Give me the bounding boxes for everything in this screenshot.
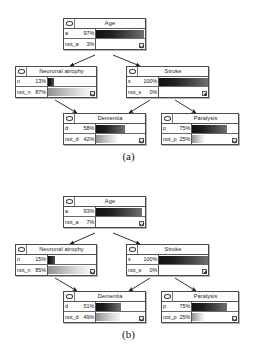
state-percent: 100% bbox=[144, 77, 158, 86]
ellipse-glyph bbox=[18, 247, 25, 252]
probability-bar-cell bbox=[48, 265, 96, 275]
ellipse-node-icon[interactable] bbox=[127, 245, 138, 254]
state-name: not_s bbox=[128, 88, 141, 97]
state-row-not_d[interactable]: not_d42% bbox=[64, 134, 145, 144]
probability-bar-cell bbox=[96, 217, 145, 227]
node-title: Stroke bbox=[138, 245, 208, 254]
state-name: d bbox=[65, 124, 68, 133]
probability-bar-cell bbox=[48, 87, 96, 97]
checkbox-checked-icon[interactable] bbox=[90, 91, 95, 96]
state-row-not_n[interactable]: not_n85% bbox=[16, 265, 96, 275]
ellipse-node-icon[interactable] bbox=[64, 19, 75, 28]
state-row-not_s[interactable]: not_s0% bbox=[127, 87, 208, 97]
node-title: Neuronal atrophy bbox=[27, 67, 96, 76]
probability-bar-cell bbox=[96, 207, 145, 216]
node-title-row: Neuronal atrophy bbox=[16, 245, 96, 255]
checkbox-checked-icon[interactable] bbox=[139, 43, 144, 48]
bn-node-stroke[interactable]: Strokes100%not_s0% bbox=[126, 244, 209, 276]
state-labels: s100% bbox=[127, 255, 159, 264]
state-labels: not_a7% bbox=[64, 217, 96, 227]
state-name: a bbox=[65, 29, 68, 38]
checkbox-checked-icon[interactable] bbox=[139, 221, 144, 226]
ellipse-node-icon[interactable] bbox=[162, 114, 173, 123]
bn-node-age[interactable]: Agea93%not_a7% bbox=[63, 196, 146, 228]
state-row-not_d[interactable]: not_d49% bbox=[64, 312, 145, 322]
probability-bar-cell bbox=[192, 302, 238, 311]
state-row-not_p[interactable]: not_p25% bbox=[162, 312, 238, 322]
ellipse-node-icon[interactable] bbox=[16, 67, 27, 76]
state-row-not_s[interactable]: not_s0% bbox=[127, 265, 208, 275]
probability-bar bbox=[192, 313, 203, 321]
bn-node-paralysis[interactable]: Paralysisp75%not_p25% bbox=[161, 113, 239, 145]
state-percent: 75% bbox=[180, 124, 191, 133]
state-percent: 42% bbox=[84, 135, 95, 144]
state-name: s bbox=[128, 77, 131, 86]
ellipse-glyph bbox=[66, 116, 73, 121]
bn-node-dementia[interactable]: Dementiad51%not_d49% bbox=[63, 291, 146, 323]
probability-bar bbox=[96, 135, 116, 143]
plus-box-icon[interactable] bbox=[202, 269, 207, 274]
probability-bar-cell bbox=[96, 312, 145, 322]
state-row-a[interactable]: a97% bbox=[64, 29, 145, 39]
state-percent: 15% bbox=[35, 255, 46, 264]
state-row-p[interactable]: p75% bbox=[162, 124, 238, 134]
state-row-d[interactable]: d58% bbox=[64, 124, 145, 134]
state-row-a[interactable]: a93% bbox=[64, 207, 145, 217]
state-name: not_a bbox=[65, 40, 79, 49]
state-row-d[interactable]: d51% bbox=[64, 302, 145, 312]
probability-bar bbox=[96, 303, 121, 311]
bn-node-age[interactable]: Agea97%not_a3% bbox=[63, 18, 146, 50]
state-labels: d58% bbox=[64, 124, 96, 133]
plus-box-icon[interactable] bbox=[202, 91, 207, 96]
state-row-n[interactable]: n13% bbox=[16, 77, 96, 87]
state-labels: n13% bbox=[16, 77, 48, 86]
ellipse-node-icon[interactable] bbox=[127, 67, 138, 76]
ellipse-node-icon[interactable] bbox=[16, 245, 27, 254]
node-title: Stroke bbox=[138, 67, 208, 76]
ellipse-node-icon[interactable] bbox=[64, 114, 75, 123]
state-row-p[interactable]: p75% bbox=[162, 302, 238, 312]
bn-node-neuronal-atrophy[interactable]: Neuronal atrophyn15%not_n85% bbox=[15, 244, 97, 276]
probability-bar bbox=[48, 266, 89, 274]
state-name: not_n bbox=[17, 88, 31, 97]
state-row-not_a[interactable]: not_a3% bbox=[64, 39, 145, 49]
ellipse-node-icon[interactable] bbox=[64, 197, 75, 206]
checkbox-checked-icon[interactable] bbox=[232, 316, 237, 321]
node-title: Dementia bbox=[75, 114, 145, 123]
probability-bar bbox=[96, 30, 143, 38]
state-row-s[interactable]: s100% bbox=[127, 77, 208, 87]
bn-node-dementia[interactable]: Dementiad58%not_d42% bbox=[63, 113, 146, 145]
node-title: Paralysis bbox=[173, 114, 238, 123]
state-row-not_a[interactable]: not_a7% bbox=[64, 217, 145, 227]
state-labels: p75% bbox=[162, 302, 192, 311]
state-percent: 75% bbox=[180, 302, 191, 311]
bn-node-neuronal-atrophy[interactable]: Neuronal atrophyn13%not_n87% bbox=[15, 66, 97, 98]
checkbox-checked-icon[interactable] bbox=[139, 138, 144, 143]
diagram-panel-b: (b) Agea93%not_a7%Neuronal atrophyn15%no… bbox=[0, 178, 257, 356]
node-title: Age bbox=[75, 19, 145, 28]
state-row-not_n[interactable]: not_n87% bbox=[16, 87, 96, 97]
state-row-n[interactable]: n15% bbox=[16, 255, 96, 265]
probability-bar bbox=[48, 88, 90, 96]
state-row-s[interactable]: s100% bbox=[127, 255, 208, 265]
state-row-not_p[interactable]: not_p25% bbox=[162, 134, 238, 144]
ellipse-node-icon[interactable] bbox=[64, 292, 75, 301]
checkbox-checked-icon[interactable] bbox=[90, 269, 95, 274]
state-labels: not_p25% bbox=[162, 134, 192, 144]
state-percent: 85% bbox=[35, 266, 46, 275]
state-labels: not_a3% bbox=[64, 39, 96, 49]
ellipse-node-icon[interactable] bbox=[162, 292, 173, 301]
bn-node-paralysis[interactable]: Paralysisp75%not_p25% bbox=[161, 291, 239, 323]
probability-bar-cell bbox=[96, 302, 145, 311]
state-percent: 58% bbox=[84, 124, 95, 133]
ellipse-glyph bbox=[164, 294, 171, 299]
probability-bar-cell bbox=[48, 255, 96, 264]
node-title: Dementia bbox=[75, 292, 145, 301]
checkbox-checked-icon[interactable] bbox=[139, 316, 144, 321]
bn-node-stroke[interactable]: Strokes100%not_s0% bbox=[126, 66, 209, 98]
checkbox-checked-icon[interactable] bbox=[232, 138, 237, 143]
state-labels: not_n87% bbox=[16, 87, 48, 97]
state-percent: 49% bbox=[84, 313, 95, 322]
probability-bar bbox=[159, 78, 208, 86]
state-labels: not_d49% bbox=[64, 312, 96, 322]
